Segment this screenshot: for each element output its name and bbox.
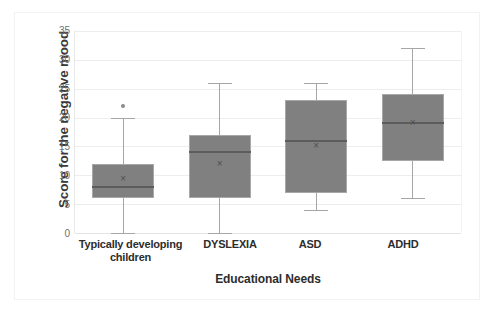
median-line [92, 186, 154, 188]
x-category-label-dyslexia: DYSLEXIA [185, 238, 275, 251]
mean-marker: × [118, 174, 128, 184]
x-category-label-adhd: ADHD [358, 238, 448, 251]
x-category-label-typically-developing-children: Typically developing children [62, 238, 199, 264]
category-label-line-1: DYSLEXIA [185, 238, 275, 251]
x-axis-title: Educational Needs [74, 272, 462, 286]
lower-whisker [316, 193, 317, 210]
lower-whisker [219, 198, 220, 233]
lower-whisker-cap [401, 198, 425, 199]
y-tick-label: 10 [42, 171, 70, 181]
category-label-line-1: Typically developing [62, 238, 199, 251]
lower-whisker-cap [208, 233, 232, 234]
upper-whisker-cap [304, 83, 328, 84]
lower-whisker-cap [304, 210, 328, 211]
lower-whisker [123, 198, 124, 233]
upper-whisker [412, 48, 413, 94]
box-plot-adhd[interactable]: × [365, 31, 462, 233]
upper-whisker [219, 83, 220, 135]
y-tick-label: 5 [42, 200, 70, 210]
upper-whisker [316, 83, 317, 100]
mean-marker: × [215, 159, 225, 169]
category-label-line-2: children [62, 251, 199, 264]
outlier-point [121, 104, 125, 108]
boxplot-figure: Score for the negative mood 35 30 25 20 … [0, 0, 495, 311]
upper-whisker-cap [111, 118, 135, 119]
plot-area: ×××× [74, 31, 462, 233]
mean-marker: × [408, 118, 418, 128]
upper-whisker-cap [401, 48, 425, 49]
box-plot-dyslexia[interactable]: × [172, 31, 269, 233]
y-axis-tick-labels: 35 30 25 20 15 10 5 0 [40, 31, 70, 233]
upper-whisker-cap [208, 83, 232, 84]
lower-whisker [412, 161, 413, 199]
category-label-line-1: ASD [270, 238, 350, 251]
category-label-line-1: ADHD [358, 238, 448, 251]
x-category-label-asd: ASD [270, 238, 350, 251]
box-plot-typically-developing-children[interactable]: × [75, 31, 172, 233]
mean-marker: × [311, 141, 321, 151]
y-tick-label: 30 [42, 55, 70, 65]
y-axis-title-container: Score for the negative mood [30, 0, 31, 311]
y-tick-label: 35 [42, 26, 70, 36]
box-plot-asd[interactable]: × [268, 31, 365, 233]
y-tick-label: 20 [42, 113, 70, 123]
y-tick-label: 15 [42, 142, 70, 152]
upper-whisker [123, 118, 124, 164]
lower-whisker-cap [111, 233, 135, 234]
median-line [189, 151, 251, 153]
y-tick-label: 25 [42, 84, 70, 94]
